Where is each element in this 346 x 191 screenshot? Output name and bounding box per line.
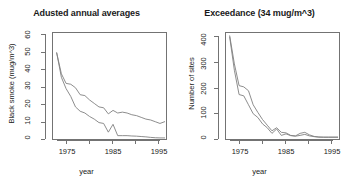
- x-tick-label: 1995: [319, 147, 345, 156]
- y-tick: [41, 69, 45, 70]
- x-axis-label: year: [0, 167, 173, 176]
- y-tick: [214, 139, 218, 140]
- y-tick-label: 20: [23, 95, 32, 113]
- y-tick-label: 400: [199, 30, 208, 50]
- x-tick: [66, 140, 67, 144]
- y-tick-label: 100: [199, 103, 208, 123]
- y-axis-line: [218, 36, 219, 139]
- curve-upper: [57, 53, 165, 124]
- y-tick-label: 10: [23, 112, 32, 130]
- x-tick: [89, 140, 90, 144]
- x-tick: [262, 140, 263, 144]
- y-tick-label: 0: [23, 129, 32, 147]
- x-tick-label: 1985: [100, 147, 126, 156]
- y-tick: [214, 113, 218, 114]
- y-tick-label: 30: [23, 77, 32, 95]
- y-tick: [41, 122, 45, 123]
- x-tick-label: 1975: [227, 147, 253, 156]
- x-axis-label: year: [173, 167, 346, 176]
- curve-lower: [57, 53, 165, 138]
- y-tick: [41, 87, 45, 88]
- x-tick: [158, 140, 159, 144]
- data-curves: [225, 32, 340, 140]
- y-tick-label: 0: [199, 128, 208, 148]
- y-tick: [41, 52, 45, 53]
- x-tick: [112, 140, 113, 144]
- x-tick-label: 1975: [54, 147, 80, 156]
- curve-lower: [230, 37, 338, 137]
- y-axis-line: [45, 34, 46, 139]
- panel-title: Adusted annual averages: [0, 8, 173, 18]
- x-tick: [239, 140, 240, 144]
- y-axis-label: Number of sites: [187, 34, 196, 134]
- x-tick: [331, 140, 332, 144]
- x-axis-line: [57, 140, 160, 141]
- figure-two-panel-plot: Adusted annual averages Black smoke (mug…: [0, 0, 346, 191]
- data-curves: [52, 32, 167, 140]
- x-tick: [285, 140, 286, 144]
- panel-adjusted-annual-averages: Adusted annual averages Black smoke (mug…: [0, 0, 173, 191]
- x-tick: [135, 140, 136, 144]
- y-tick: [41, 34, 45, 35]
- x-tick-label: 1985: [273, 147, 299, 156]
- y-tick: [214, 62, 218, 63]
- y-tick-label: 300: [199, 54, 208, 74]
- y-tick-label: 200: [199, 79, 208, 99]
- curve-upper: [230, 36, 338, 137]
- y-tick: [41, 139, 45, 140]
- y-tick-label: 50: [23, 43, 32, 61]
- x-tick: [308, 140, 309, 144]
- panel-title: Exceedance (34 mug/m^3): [173, 8, 346, 18]
- y-tick: [41, 104, 45, 105]
- y-tick-label: 40: [23, 60, 32, 78]
- panel-exceedance: Exceedance (34 mug/m^3) Number of sites …: [173, 0, 346, 191]
- y-tick: [214, 36, 218, 37]
- y-tick-label: 60: [23, 26, 32, 44]
- y-tick: [214, 88, 218, 89]
- y-axis-label: Black smoke (mug/m^3): [7, 34, 16, 134]
- x-tick-label: 1995: [146, 147, 172, 156]
- x-axis-line: [230, 140, 333, 141]
